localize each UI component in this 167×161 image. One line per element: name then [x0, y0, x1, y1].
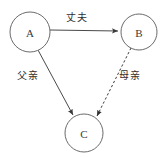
edge-a-to-b: [50, 30, 118, 31]
edge-a-to-c: [38, 50, 73, 115]
edge-label-b-to-c: 母亲: [119, 71, 140, 81]
relationship-diagram: A B C 丈夫 父亲 母亲: [0, 0, 167, 161]
node-a-label: A: [26, 27, 34, 39]
node-b-label: B: [135, 27, 142, 39]
edge-b-to-c: [97, 48, 131, 116]
edge-label-a-to-c: 父亲: [17, 71, 38, 81]
node-c-label: C: [80, 128, 87, 140]
edge-label-a-to-b: 丈夫: [66, 13, 87, 23]
